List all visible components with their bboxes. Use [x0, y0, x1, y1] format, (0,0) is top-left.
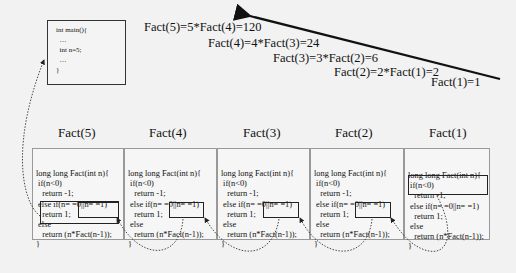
dotted-arrow-fact1-to-fact2 — [391, 196, 448, 251]
dotted-arrow-fact3-to-fact4 — [205, 218, 279, 251]
dotted-arrow-fact4-to-fact5 — [117, 218, 183, 250]
return-arrow — [250, 16, 500, 79]
call-arrows — [0, 0, 516, 273]
dotted-arrow-fact2-to-fact3 — [300, 218, 372, 251]
dotted-arrow-to-main — [22, 60, 44, 216]
